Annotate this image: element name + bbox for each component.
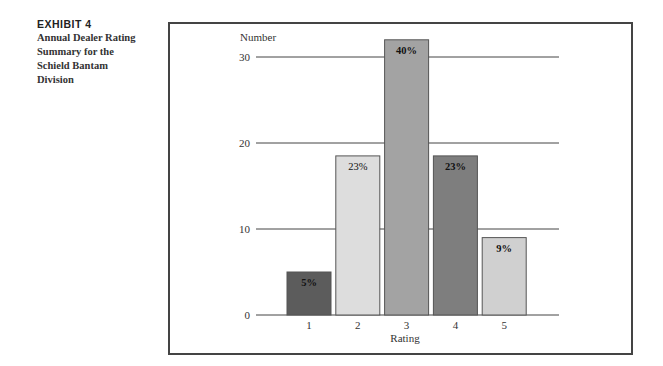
x-tick-label: 2	[355, 319, 361, 331]
x-tick-label: 5	[501, 319, 507, 331]
bar-data-label: 5%	[301, 277, 317, 288]
y-tick-label: 0	[245, 309, 251, 321]
y-axis-label: Number	[240, 31, 276, 43]
bar-rating-3	[385, 40, 429, 315]
bar-data-label: 9%	[496, 243, 512, 254]
y-axis-ticks: 0102030	[239, 51, 251, 321]
bar-chart: 5%23%40%23%9% 0102030 12345 Number Ratin…	[0, 0, 663, 366]
bar-rating-4	[433, 156, 477, 315]
bar-data-label: 40%	[396, 45, 417, 56]
x-tick-label: 1	[306, 319, 312, 331]
bar-data-label: 23%	[348, 161, 368, 172]
x-axis-label: Rating	[390, 332, 420, 344]
bars: 5%23%40%23%9%	[287, 40, 526, 315]
x-tick-label: 3	[404, 319, 410, 331]
bar-rating-2	[336, 156, 380, 315]
bar-data-label: 23%	[445, 161, 466, 172]
y-tick-label: 30	[239, 51, 251, 63]
y-tick-label: 10	[239, 223, 251, 235]
y-tick-label: 20	[239, 137, 251, 149]
x-tick-label: 4	[453, 319, 459, 331]
x-axis-ticks: 12345	[306, 319, 507, 331]
